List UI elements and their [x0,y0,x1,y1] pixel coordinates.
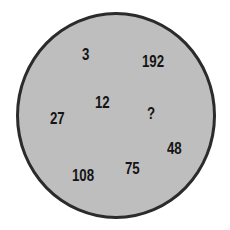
puzzle-canvas: 3 192 12 27 ? 48 75 108 [0,0,230,230]
number-192: 192 [142,53,164,70]
number-27: 27 [50,110,65,127]
missing-number-question-mark: ? [147,105,155,122]
number-3: 3 [82,46,89,63]
number-108: 108 [72,167,94,184]
number-48: 48 [167,140,182,157]
number-12: 12 [95,94,110,111]
puzzle-circle [16,12,216,219]
number-75: 75 [125,160,140,177]
